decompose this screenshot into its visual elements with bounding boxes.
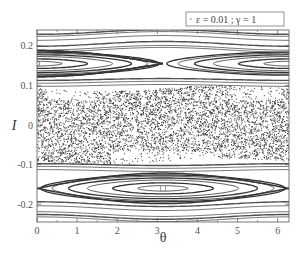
x-tick-label: 0 — [35, 225, 40, 236]
y-tick-label: -0.1 — [17, 159, 33, 170]
x-tick-label: 6 — [275, 225, 280, 236]
open-square-marker — [161, 186, 166, 191]
y-tick-label: 0.1 — [21, 80, 34, 91]
legend: ε = 0.01 ; γ = 1 — [186, 12, 284, 26]
legend-label: ε = 0.01 ; γ = 1 — [196, 14, 256, 25]
y-tick-label: 0 — [28, 120, 33, 131]
x-tick-label: 2 — [115, 225, 120, 236]
legend-dot-marker — [190, 18, 192, 20]
x-tick-label: 4 — [195, 225, 200, 236]
x-tick-label: 1 — [75, 225, 80, 236]
poincare-section-chart: 0123456 0.20.10-0.1-0.2 θ I ε = 0.01 ; γ… — [0, 0, 303, 257]
x-tick-label: 5 — [235, 225, 240, 236]
x-axis-title: θ — [160, 230, 167, 245]
y-tick-label: 0.2 — [21, 40, 34, 51]
y-tick-label: -0.2 — [17, 199, 33, 210]
